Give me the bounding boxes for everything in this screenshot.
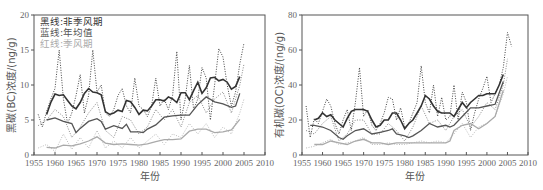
y-tick-label: 20: [20, 10, 30, 20]
y-tick-label: 40: [288, 80, 298, 90]
oc-chart: 1955196019651970197519801985199019952000…: [273, 10, 538, 182]
x-tick-label: 2000: [478, 158, 497, 168]
x-tick-label: 1990: [172, 158, 191, 168]
y-tick-label: 15: [20, 45, 30, 55]
x-tick-label: 1995: [457, 158, 476, 168]
series-line: [310, 82, 503, 140]
x-tick-label: 2005: [498, 158, 517, 168]
series-line: [38, 43, 244, 127]
x-tick-label: 1970: [355, 158, 374, 168]
bc-chart: 1955196019651970197519801985199019952000…: [5, 10, 275, 182]
charts-canvas: 1955196019651970197519801985199019952000…: [0, 0, 543, 190]
oc-y-ticks: 020406080: [288, 10, 302, 160]
x-tick-label: 2000: [214, 158, 233, 168]
oc-x-ticks: 1955196019651970197519801985199019952000…: [293, 152, 538, 168]
x-tick-label: 1985: [151, 158, 170, 168]
oc-plot-lines: [306, 33, 512, 149]
x-tick-label: 1965: [67, 158, 86, 168]
bc-y-axis-title: 黑碳(BC)浓度/(ng/g): [5, 37, 17, 132]
x-tick-label: 1990: [437, 158, 456, 168]
y-tick-label: 5: [25, 115, 30, 125]
bc-x-ticks: 1955196019651970197519801985199019952000…: [25, 152, 275, 168]
legend-entry-non-monsoon: 黑线:非季风期: [40, 16, 103, 27]
y-tick-label: 80: [288, 10, 298, 20]
legend-entry-monsoon: 红线:季风期: [40, 38, 93, 49]
x-tick-label: 1985: [416, 158, 435, 168]
x-tick-label: 1965: [334, 158, 353, 168]
oc-y-axis-title: 有机碳(OC)浓度/(ng/g): [273, 32, 285, 138]
bc-x-axis-title: 年份: [140, 170, 160, 182]
x-tick-label: 1960: [314, 158, 333, 168]
y-tick-label: 0: [293, 150, 298, 160]
bc-y-ticks: 05101520: [20, 10, 34, 160]
series-line: [47, 93, 240, 132]
series-line: [47, 119, 240, 148]
x-tick-label: 1970: [88, 158, 107, 168]
series-line: [38, 99, 244, 152]
oc-x-axis-title: 年份: [405, 170, 425, 182]
y-tick-label: 60: [288, 45, 298, 55]
x-tick-label: 1975: [375, 158, 394, 168]
legend-entry-annual-mean: 蓝线:年均值: [40, 27, 93, 38]
x-tick-label: 1980: [396, 158, 415, 168]
y-tick-label: 20: [288, 115, 298, 125]
bc-plot-lines: [38, 43, 244, 152]
bc-legend: 黑线:非季风期 蓝线:年均值 红线:季风期: [40, 16, 103, 49]
x-tick-label: 1960: [46, 158, 65, 168]
x-tick-label: 1980: [130, 158, 149, 168]
x-tick-label: 1975: [109, 158, 128, 168]
x-tick-label: 2005: [235, 158, 254, 168]
x-tick-label: 2010: [256, 158, 275, 168]
x-tick-label: 2010: [519, 158, 538, 168]
y-tick-label: 0: [25, 150, 30, 160]
x-tick-label: 1995: [193, 158, 212, 168]
y-tick-label: 10: [20, 80, 30, 90]
